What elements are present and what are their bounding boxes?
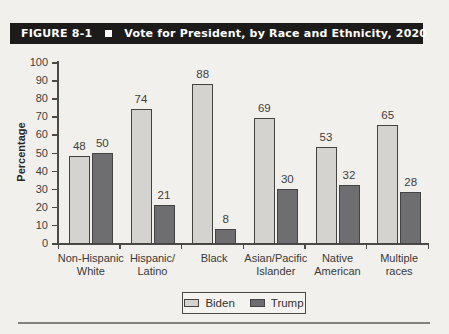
legend-label-biden: Biden (205, 298, 234, 309)
y-tick-mark (52, 80, 57, 82)
y-tick-label: 100 (22, 56, 48, 68)
y-tick-mark (52, 207, 57, 209)
y-tick-label: 70 (22, 110, 48, 122)
legend-label-trump: Trump (271, 298, 304, 309)
y-tick-mark (52, 98, 57, 100)
y-tick-label: 80 (22, 92, 48, 104)
y-tick-mark (52, 171, 57, 173)
y-tick-mark (52, 116, 57, 118)
bar-value-label: 65 (368, 109, 407, 122)
y-tick-label: 10 (22, 219, 48, 231)
bar-biden (131, 109, 152, 244)
bar-value-label: 88 (183, 68, 222, 81)
legend-swatch-biden (184, 299, 199, 307)
bar-value-label: 8 (206, 213, 245, 226)
y-tick-mark (52, 134, 57, 136)
legend-entry-trump: Trump (250, 298, 304, 309)
y-tick-label: 90 (22, 74, 48, 86)
y-tick-mark (52, 189, 57, 191)
bar-value-label: 30 (268, 173, 307, 186)
x-category-label: Multiple races (353, 252, 445, 279)
bar-biden (316, 147, 337, 244)
bar-value-label: 50 (83, 137, 122, 150)
y-axis (57, 61, 59, 244)
x-tick-mark (428, 243, 430, 249)
bar-value-label: 53 (307, 131, 346, 144)
y-tick-mark (52, 225, 57, 227)
y-tick-label: 20 (22, 201, 48, 213)
bar-biden (69, 156, 90, 244)
y-tick-mark (52, 153, 57, 155)
y-tick-label: 40 (22, 165, 48, 177)
bar-trump (154, 205, 175, 244)
y-tick-mark (52, 62, 57, 64)
x-tick-mark (58, 243, 60, 249)
y-tick-label: 0 (22, 237, 48, 249)
scanned-page: FIGURE 8-1 Vote for President, by Race a… (0, 0, 449, 334)
legend: BidenTrump (182, 292, 306, 314)
x-tick-mark (243, 243, 245, 249)
bar-value-label: 69 (245, 102, 284, 115)
bar-trump (339, 185, 360, 244)
x-tick-mark (119, 243, 121, 249)
bar-value-label: 32 (330, 169, 369, 182)
bar-chart: Percentage 01020304050607080901004850Non… (0, 0, 449, 334)
y-tick-mark (52, 243, 57, 245)
bar-trump (92, 153, 113, 245)
y-tick-label: 60 (22, 128, 48, 140)
y-tick-label: 50 (22, 147, 48, 159)
bar-trump (277, 189, 298, 244)
bar-value-label: 74 (122, 93, 161, 106)
divider-line (18, 322, 430, 324)
legend-entry-biden: Biden (184, 298, 234, 309)
bar-value-label: 28 (391, 176, 430, 189)
x-tick-mark (304, 243, 306, 249)
x-tick-mark (181, 243, 183, 249)
bar-trump (400, 192, 421, 244)
bar-value-label: 21 (145, 189, 184, 202)
x-tick-mark (366, 243, 368, 249)
bar-trump (215, 229, 236, 244)
y-tick-label: 30 (22, 183, 48, 195)
legend-swatch-trump (250, 299, 265, 307)
